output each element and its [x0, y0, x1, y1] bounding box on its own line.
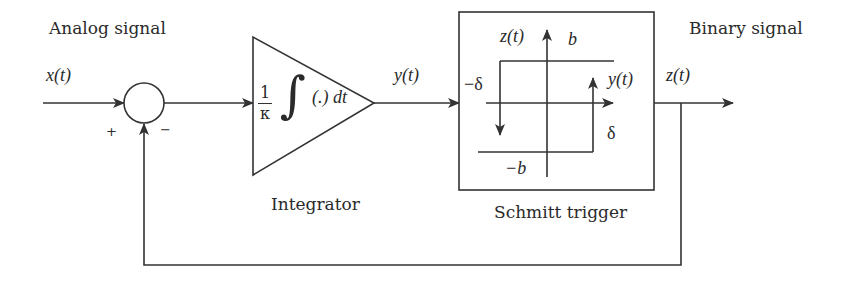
input-title: Analog signal [49, 20, 166, 37]
integral-symbol: ∫ [280, 70, 306, 120]
sigma-delta-block-diagram: Analog signal Binary signal x(t) y(t) z(… [0, 0, 849, 282]
schmitt-z-axis-label: z(t) [500, 27, 524, 45]
sum-minus-sign: − [160, 123, 171, 136]
sum-plus-sign: + [106, 125, 117, 138]
schmitt-lower-level-label: −b [505, 159, 526, 177]
input-signal-label: x(t) [46, 66, 71, 84]
schmitt-y-axis-label: y(t) [608, 70, 633, 88]
integrator-output-label: y(t) [394, 66, 419, 84]
integrator-title: Integrator [271, 196, 360, 213]
output-title: Binary signal [689, 20, 803, 37]
integrator-gain-numerator: 1 [258, 85, 272, 101]
summing-junction [124, 83, 164, 123]
diagram-lines [0, 0, 849, 282]
output-signal-label: z(t) [666, 66, 690, 84]
integrand-label: (.) dt [312, 88, 347, 106]
schmitt-trigger-block [459, 12, 654, 190]
schmitt-pos-threshold-label: δ [607, 124, 615, 142]
integrator-gain-denominator: κ [258, 106, 272, 122]
schmitt-upper-level-label: b [568, 30, 577, 48]
schmitt-trigger-title: Schmitt trigger [494, 204, 627, 221]
schmitt-neg-threshold-label: −δ [464, 75, 483, 93]
